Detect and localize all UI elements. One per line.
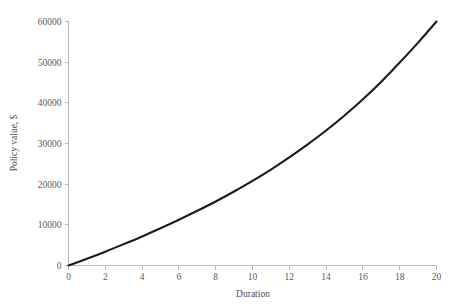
x-tick-label: 2 [103, 272, 108, 282]
x-tick-label: 0 [66, 272, 71, 282]
y-tick-label: 0 [57, 261, 62, 271]
chart-figure: 0100002000030000400005000060000 02468101… [0, 0, 465, 308]
y-tick-label: 60000 [38, 17, 62, 27]
x-tick-label: 20 [432, 272, 442, 282]
x-tick-label: 4 [140, 272, 145, 282]
policy-value-line-chart: 0100002000030000400005000060000 02468101… [0, 0, 465, 308]
x-axis-title: Duration [236, 289, 270, 299]
chart-background [0, 0, 465, 308]
x-tick-label: 12 [285, 272, 295, 282]
y-tick-label: 30000 [38, 139, 62, 149]
x-tick-label: 8 [213, 272, 218, 282]
y-tick-label: 20000 [38, 180, 62, 190]
x-tick-label: 14 [321, 272, 331, 282]
x-tick-label: 6 [177, 272, 182, 282]
x-tick-label: 18 [395, 272, 405, 282]
y-tick-label: 40000 [38, 98, 62, 108]
x-tick-label: 16 [358, 272, 368, 282]
y-tick-label: 10000 [38, 220, 62, 230]
y-tick-label: 50000 [38, 58, 62, 68]
x-tick-label: 10 [248, 272, 258, 282]
y-axis-title: Policy value, $ [9, 114, 19, 171]
